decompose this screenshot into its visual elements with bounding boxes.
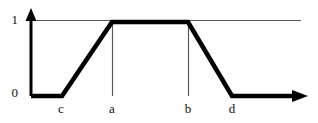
x-tick-label-a: a [105, 102, 119, 115]
y-tick-label-0: 0 [4, 86, 18, 99]
y-tick-label-1: 1 [4, 13, 18, 26]
x-tick-label-b: b [181, 102, 195, 115]
trapezoid-curve [31, 22, 296, 96]
y-axis-arrowhead-icon [26, 8, 37, 21]
x-tick-label-c: c [54, 102, 68, 115]
x-tick-label-d: d [225, 102, 239, 115]
trapezoid-plot [0, 0, 318, 123]
figure-canvas: 1 0 c a b d [0, 0, 318, 123]
